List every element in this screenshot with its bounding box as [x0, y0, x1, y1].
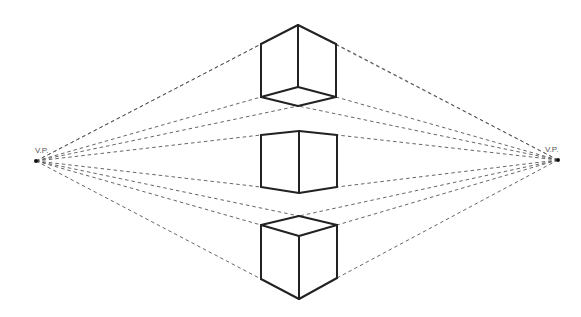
guide-line-right: [336, 44, 558, 160]
cube-edge: [299, 216, 337, 225]
cube-edge: [299, 187, 337, 193]
guide-line-right: [336, 97, 558, 160]
right-vanishing-point-label: V.P.: [545, 145, 558, 154]
cube-edge: [298, 97, 336, 106]
guide-line-left: [36, 161, 261, 279]
right-vanishing-point-dot: [556, 158, 560, 162]
middle-cube-at-horizon: [261, 131, 337, 193]
guide-line-left: [36, 25, 298, 161]
guide-line-right: [337, 160, 558, 278]
guide-line-right: [337, 160, 558, 225]
cube-edge: [261, 187, 299, 193]
guide-line-left: [36, 161, 261, 225]
cube-edge: [261, 279, 299, 299]
cubes: [261, 25, 337, 299]
cube-edge: [261, 225, 299, 236]
guide-line-left: [36, 161, 299, 216]
cube-edge: [261, 131, 299, 135]
guide-line-left: [36, 44, 261, 161]
cube-edge: [261, 87, 298, 97]
guide-line-right: [337, 160, 558, 187]
cube-edge: [299, 131, 337, 135]
bottom-cube-below-horizon: [261, 216, 337, 299]
guide-line-left: [36, 161, 261, 187]
guide-line-left: [36, 97, 261, 161]
cube-edge: [299, 278, 337, 299]
cube-edge: [299, 225, 337, 236]
top-cube-above-horizon: [261, 25, 336, 106]
vanishing-points: [34, 158, 560, 163]
cube-edge: [261, 216, 299, 225]
cube-edge: [261, 97, 298, 106]
cube-edge: [298, 25, 336, 44]
perspective-diagram: [0, 0, 581, 317]
left-vanishing-point-label: V.P.: [35, 146, 48, 155]
guide-line-left: [36, 106, 298, 161]
left-vanishing-point-dot: [34, 159, 38, 163]
cube-edge: [261, 25, 298, 44]
guide-line-left: [36, 135, 261, 161]
guide-line-right: [337, 135, 558, 160]
cube-edge: [298, 87, 336, 97]
